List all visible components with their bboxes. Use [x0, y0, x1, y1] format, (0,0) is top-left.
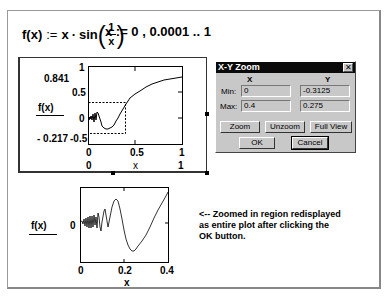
x-min-field[interactable]: 0 — [241, 85, 291, 97]
x-tick-1: 1 — [179, 147, 185, 158]
bottom-y-tick-0: 0 — [70, 220, 76, 231]
y-tick-0: 0 — [79, 113, 85, 124]
full-view-button[interactable]: Full View — [310, 121, 352, 133]
bottom-x-tick-0.4: 0.4 — [160, 265, 174, 276]
resize-handle-bottom[interactable] — [111, 171, 115, 175]
x-range-max[interactable]: 1 — [178, 160, 184, 171]
y-readout-min[interactable]: - 0.217 — [37, 133, 68, 144]
dialog-titlebar[interactable]: X-Y Zoom — [216, 62, 355, 73]
x-range-min[interactable]: 0 — [86, 160, 92, 171]
top-plot-canvas — [88, 66, 183, 145]
close-button[interactable]: ✕ — [343, 63, 353, 72]
resize-handle-right[interactable] — [205, 112, 209, 116]
multiply-dot: · — [72, 27, 76, 42]
bottom-x-tick-0.2: 0.2 — [118, 265, 132, 276]
y-tick-1: 1 — [79, 62, 85, 73]
range-definition: x := 0 , 0.0001 .. 1 — [105, 24, 211, 39]
top-plot-xlabel: x — [133, 160, 138, 171]
y-max-field[interactable]: 0.275 — [300, 100, 350, 112]
bottom-x-tick-0: 0 — [78, 265, 84, 276]
assign-operator: := — [46, 27, 57, 42]
dialog-title: X-Y Zoom — [218, 62, 260, 72]
cancel-button[interactable]: Cancel — [292, 137, 328, 149]
x-max-field[interactable]: 0.4 — [241, 100, 291, 112]
y-readout-max[interactable]: 0.841 — [44, 73, 69, 84]
bottom-plot-canvas[interactable] — [80, 187, 169, 263]
annotation-note: <-- Zoomed in region redisplayed as enti… — [199, 209, 341, 242]
definition-lhs: f(x) — [22, 27, 42, 42]
y-tick-0.5: 0.5 — [72, 87, 86, 98]
column-y-header: Y — [325, 75, 330, 84]
note-line-1: <-- Zoomed in region redisplayed — [199, 209, 341, 220]
top-plot-ylabel: f(x) — [38, 102, 54, 113]
sin-function: sin — [79, 27, 98, 42]
y-tick-neg0.5: -0.5 — [70, 133, 87, 144]
bottom-plot-ylabel: f(x) — [31, 220, 47, 231]
xy-zoom-dialog: X-Y Zoom ✕ X Y Min: Max: 0 -0.3125 0.4 0… — [215, 61, 356, 153]
y-min-field[interactable]: -0.3125 — [300, 85, 350, 97]
x-tick-0.5: 0.5 — [130, 147, 144, 158]
max-label: Max: — [220, 102, 237, 111]
note-line-2: as entire plot after clicking the — [199, 220, 341, 231]
note-line-3: OK button. — [199, 231, 341, 242]
x-tick-0: 0 — [86, 147, 92, 158]
ylabel-underline — [36, 115, 64, 116]
bottom-plot-xlabel: x — [124, 277, 130, 288]
column-x-header: X — [247, 75, 252, 84]
definition-x: x — [61, 27, 68, 42]
unzoom-button[interactable]: Unzoom — [265, 121, 305, 133]
ok-button[interactable]: OK — [239, 137, 275, 149]
bottom-ylabel-underline — [29, 234, 57, 235]
zoom-button[interactable]: Zoom — [220, 121, 260, 133]
min-label: Min: — [221, 87, 236, 96]
close-icon: ✕ — [345, 63, 352, 72]
resize-handle-corner[interactable] — [205, 171, 209, 175]
